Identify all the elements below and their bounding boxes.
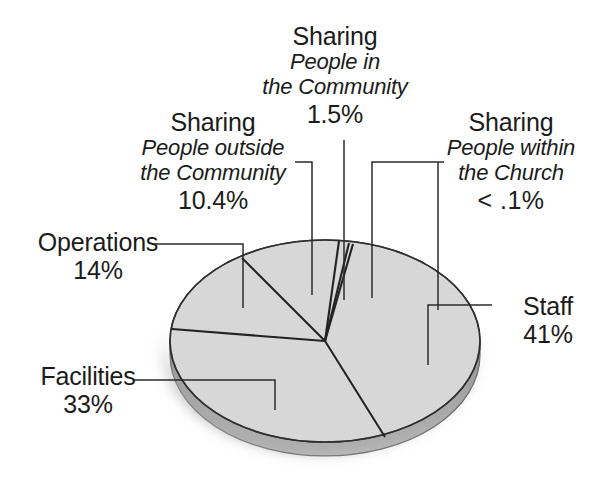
slice-label-percent: 10.4% <box>110 186 316 214</box>
slice-label-category: Sharing <box>246 22 424 50</box>
pie-chart-figure: Sharing People in the Community 1.5% Sha… <box>0 0 604 493</box>
slice-label-subline-2: the Community <box>246 75 424 100</box>
slice-label-operations: Operations 14% <box>14 228 182 285</box>
slice-label-percent: 41% <box>496 320 600 348</box>
slice-label-category: Sharing <box>110 108 316 136</box>
slice-label-subline-2: the Church <box>418 161 604 186</box>
slice-label-sharing-people-outside-the-community: Sharing People outside the Community 10.… <box>110 108 316 214</box>
slice-label-category: Sharing <box>418 108 604 136</box>
slice-label-category: Operations <box>14 228 182 256</box>
slice-label-category: Facilities <box>8 362 168 390</box>
slice-label-subline-1: People within <box>418 136 604 161</box>
slice-label-sharing-people-within-the-church: Sharing People within the Church < .1% <box>418 108 604 214</box>
slice-label-subline-1: People outside <box>110 136 316 161</box>
slice-label-subline-1: People in <box>246 50 424 75</box>
slice-label-percent: < .1% <box>418 186 604 214</box>
slice-label-percent: 14% <box>14 256 182 284</box>
slice-label-percent: 33% <box>8 390 168 418</box>
slice-label-category: Staff <box>496 292 600 320</box>
slice-label-subline-2: the Community <box>110 161 316 186</box>
slice-label-facilities: Facilities 33% <box>8 362 168 419</box>
slice-label-staff: Staff 41% <box>496 292 600 349</box>
